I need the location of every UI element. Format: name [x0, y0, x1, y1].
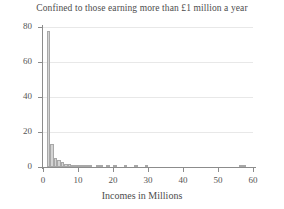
x-axis-tick-label: 60 — [238, 175, 268, 185]
x-axis-tick-label: 0 — [28, 175, 58, 185]
x-axis-tick — [183, 167, 184, 172]
y-axis-tick-label: 20 — [6, 127, 32, 136]
gridline-60 — [43, 62, 253, 63]
x-axis-tick — [78, 167, 79, 172]
histogram-figure: Confined to those earning more than £1 m… — [0, 0, 284, 209]
y-axis-tick-label: 0 — [6, 162, 32, 171]
x-axis-tick — [113, 167, 114, 172]
x-axis-tick — [218, 167, 219, 172]
gridline-40 — [43, 97, 253, 98]
y-axis-tick-label: 60 — [6, 57, 32, 66]
x-axis-tick — [148, 167, 149, 172]
y-axis-tick — [38, 132, 43, 133]
y-axis-tick-label: 40 — [6, 92, 32, 101]
x-axis-tick-label: 40 — [168, 175, 198, 185]
y-axis-tick — [38, 97, 43, 98]
gridline-80 — [43, 27, 253, 28]
x-axis-tick-label: 20 — [98, 175, 128, 185]
x-axis-tick-label: 10 — [63, 175, 93, 185]
plot-area — [43, 27, 253, 167]
x-axis-title: Incomes in Millions — [0, 189, 284, 202]
x-axis-tick-label: 50 — [203, 175, 233, 185]
y-axis-tick — [38, 62, 43, 63]
x-axis-tick — [43, 167, 44, 172]
y-axis-tick — [38, 27, 43, 28]
chart-title: Confined to those earning more than £1 m… — [0, 2, 284, 14]
x-axis-tick-label: 30 — [133, 175, 163, 185]
x-axis-tick — [253, 167, 254, 172]
gridline-20 — [43, 132, 253, 133]
y-axis-tick-label: 80 — [6, 22, 32, 31]
